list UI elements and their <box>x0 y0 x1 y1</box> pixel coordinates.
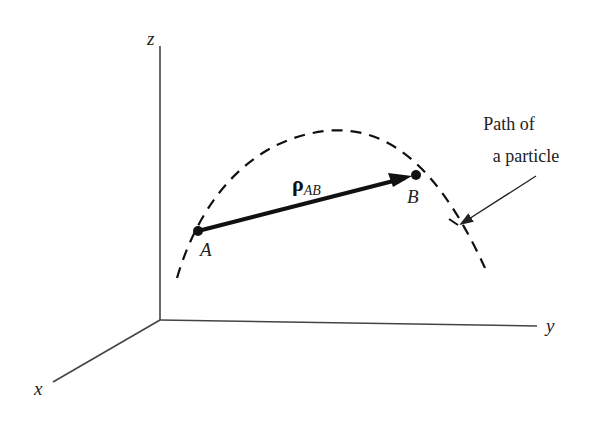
vector-label: ρAB <box>292 171 321 198</box>
path-annotation-line2: a particle <box>493 146 559 166</box>
vector-symbol: ρ <box>292 171 304 196</box>
x-axis <box>53 320 160 382</box>
particle-path-curve <box>177 130 485 278</box>
y-axis <box>160 320 537 326</box>
path-annotation-line1: Path of <box>483 114 535 134</box>
point-a-dot <box>193 226 203 236</box>
particle-path-diagram: z y x A B ρAB Path of a particle <box>0 0 599 422</box>
z-axis-label: z <box>146 28 155 49</box>
annotation-pointer-arrow <box>461 176 536 224</box>
vector-subscript: AB <box>303 183 322 198</box>
y-axis-label: y <box>544 315 555 336</box>
point-b-dot <box>411 170 421 180</box>
vector-arrowhead <box>388 173 412 187</box>
path-tick-mark <box>449 219 458 225</box>
point-a-label: A <box>198 239 212 260</box>
point-b-label: B <box>407 186 419 207</box>
x-axis-label: x <box>33 378 43 399</box>
